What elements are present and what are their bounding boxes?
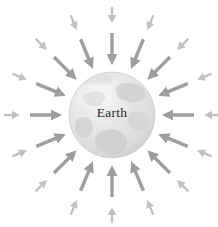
field-arrow: [36, 133, 66, 148]
field-arrow: [146, 200, 154, 215]
gravity-field-figure: Earth: [0, 0, 218, 227]
field-arrow: [158, 82, 188, 97]
field-arrow: [108, 7, 116, 23]
field-arrow: [158, 133, 188, 148]
field-arrow: [162, 110, 194, 121]
field-arrow: [79, 161, 94, 191]
field-arrow: [12, 73, 27, 81]
field-arrow: [177, 38, 189, 50]
field-arrow: [107, 165, 118, 197]
field-arrow: [36, 82, 66, 97]
field-arrow: [53, 150, 77, 174]
field-arrow: [70, 15, 78, 30]
field-arrow: [197, 73, 212, 81]
field-arrow: [147, 56, 171, 80]
field-arrow: [107, 33, 118, 65]
field-arrow: [147, 150, 171, 174]
field-arrow: [30, 110, 62, 121]
field-arrow: [70, 200, 78, 215]
field-arrow: [53, 56, 77, 80]
field-arrow: [130, 39, 145, 69]
field-arrow: [79, 39, 94, 69]
field-arrow: [35, 180, 47, 192]
field-arrow: [35, 38, 47, 50]
field-arrow: [197, 149, 212, 157]
field-arrow: [146, 15, 154, 30]
field-arrow: [12, 149, 27, 157]
field-arrow: [130, 161, 145, 191]
field-arrow: [177, 180, 189, 192]
field-arrow: [108, 207, 116, 223]
earth-label: Earth: [97, 105, 128, 120]
field-arrow: [204, 111, 218, 119]
diagram-canvas: Earth: [0, 0, 218, 227]
field-arrow: [4, 111, 20, 119]
